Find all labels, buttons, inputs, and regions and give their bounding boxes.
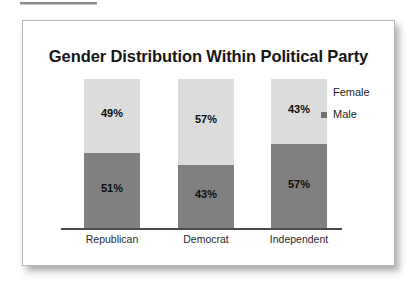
bar-value-label: 43% — [195, 189, 217, 200]
bar-segment-male[interactable]: 43% — [178, 165, 234, 230]
chart-card: Gender Distribution Within Political Par… — [22, 20, 395, 266]
x-tick-label-democrat: Democrat — [161, 233, 251, 245]
legend-item-female[interactable]: Female — [321, 84, 391, 101]
bar-group-republican[interactable]: 49% 51% — [84, 79, 140, 229]
legend-swatch-icon — [321, 112, 327, 118]
x-tick-label-republican: Republican — [67, 233, 157, 245]
bar-segment-male[interactable]: 51% — [84, 153, 140, 230]
chart-title: Gender Distribution Within Political Par… — [23, 47, 394, 66]
plot-area: 49% 51% 57% 43% 43% 57% — [61, 79, 333, 229]
legend-swatch-icon — [321, 90, 327, 96]
bar-value-label: 49% — [101, 108, 123, 119]
legend-label-male: Male — [333, 109, 357, 120]
bar-group-democrat[interactable]: 57% 43% — [178, 79, 234, 229]
top-rule — [20, 2, 97, 4]
x-tick-label-independent: Independent — [254, 233, 344, 245]
x-axis-tick-labels: Republican Democrat Independent — [61, 233, 342, 249]
bar-segment-male[interactable]: 57% — [271, 144, 327, 230]
bar-segment-female[interactable]: 57% — [178, 79, 234, 165]
bar-value-label: 57% — [288, 179, 310, 190]
bar-segment-female[interactable]: 49% — [84, 79, 140, 153]
x-axis-line — [61, 228, 342, 230]
bar-value-label: 43% — [288, 104, 310, 115]
legend: Female Male — [321, 84, 391, 128]
bar-value-label: 57% — [195, 114, 217, 125]
legend-item-male[interactable]: Male — [321, 106, 391, 123]
bar-group-independent[interactable]: 43% 57% — [271, 79, 327, 229]
bar-segment-female[interactable]: 43% — [271, 79, 327, 144]
bar-value-label: 51% — [101, 183, 123, 194]
legend-label-female: Female — [333, 87, 370, 98]
